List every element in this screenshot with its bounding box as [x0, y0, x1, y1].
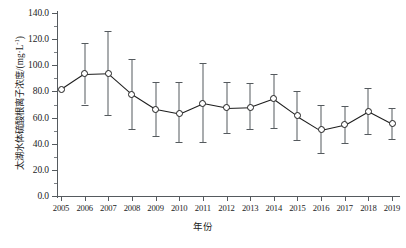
error-bar-cap-lower — [365, 134, 372, 135]
x-tick-major — [108, 197, 109, 201]
data-point-marker — [152, 106, 159, 113]
x-tick-major — [203, 197, 204, 201]
x-tick-label: 2013 — [242, 203, 258, 213]
x-tick-major — [179, 197, 180, 201]
x-tick-major — [321, 197, 322, 201]
x-tick-label: 2009 — [147, 203, 163, 213]
y-axis-title-tail: ) — [15, 36, 25, 39]
x-tick-major — [297, 197, 298, 201]
error-bar-cap-upper — [365, 88, 372, 89]
error-bar-cap-upper — [176, 82, 183, 83]
x-tick-label: 2006 — [76, 203, 92, 213]
x-tick-label: 2018 — [360, 203, 376, 213]
error-bar-cap-upper — [199, 63, 206, 64]
error-bar-cap-upper — [128, 59, 135, 60]
x-tick-label: 2014 — [266, 203, 282, 213]
error-bar-cap-lower — [389, 139, 396, 140]
error-bar-cap-lower — [318, 153, 325, 154]
y-tick-minor — [54, 26, 57, 27]
x-tick-major — [156, 197, 157, 201]
data-point-marker — [223, 104, 230, 111]
error-bar-cap-lower — [81, 105, 88, 106]
error-bar-cap-lower — [152, 136, 159, 137]
error-bar-cap-lower — [247, 129, 254, 130]
x-tick-major — [227, 197, 228, 201]
y-tick-major — [52, 91, 57, 92]
x-tick-label: 2011 — [195, 203, 211, 213]
data-point-marker — [105, 70, 112, 77]
y-tick-minor — [54, 105, 57, 106]
error-bar-cap-upper — [152, 82, 159, 83]
plot-area — [57, 13, 398, 196]
error-bar-cap-lower — [176, 142, 183, 143]
x-tick-label: 2016 — [313, 203, 329, 213]
data-point-marker — [318, 126, 325, 133]
error-bar-cap-upper — [223, 82, 230, 83]
error-bar-cap-upper — [105, 31, 112, 32]
error-bar-cap-lower — [128, 129, 135, 130]
x-tick-major — [368, 197, 369, 201]
y-tick-minor — [54, 131, 57, 132]
y-tick-major — [52, 118, 57, 119]
y-tick-label: 60.0 — [33, 113, 49, 123]
error-bar-cap-lower — [294, 140, 301, 141]
y-axis-title-superscript: -1 — [13, 39, 20, 45]
y-tick-label: 20.0 — [33, 165, 49, 175]
y-axis-tick-labels: 0.020.040.060.080.0100.0120.0140.0 — [0, 13, 57, 196]
data-point-marker — [247, 104, 254, 111]
x-tick-major — [345, 197, 346, 201]
error-bar-cap-upper — [270, 74, 277, 75]
x-tick-label: 2012 — [218, 203, 234, 213]
x-tick-major — [274, 197, 275, 201]
x-tick-label: 2015 — [289, 203, 305, 213]
y-tick-minor — [54, 78, 57, 79]
x-axis-title: 年份 — [0, 219, 406, 233]
data-point-marker — [365, 108, 372, 115]
data-point-marker — [81, 70, 88, 77]
chart-figure: 0.020.040.060.080.0100.0120.0140.0 20052… — [0, 0, 406, 248]
y-tick-label: 40.0 — [33, 139, 49, 149]
data-point-marker — [176, 110, 183, 117]
error-bar-cap-lower — [223, 133, 230, 134]
y-tick-label: 140.0 — [28, 8, 49, 18]
x-tick-label: 2017 — [337, 203, 353, 213]
x-axis-ticks — [57, 197, 400, 202]
error-bar-cap-lower — [270, 128, 277, 129]
error-bar-cap-lower — [199, 142, 206, 143]
error-bar-cap-upper — [294, 91, 301, 92]
y-tick-label: 80.0 — [33, 86, 49, 96]
error-bar-cap-upper — [247, 83, 254, 84]
error-bar-cap-lower — [105, 115, 112, 116]
x-tick-major — [392, 197, 393, 201]
x-tick-label: 2019 — [384, 203, 400, 213]
y-tick-minor — [54, 52, 57, 53]
y-tick-minor — [54, 183, 57, 184]
x-tick-major — [85, 197, 86, 201]
y-tick-major — [52, 170, 57, 171]
y-tick-label: 100.0 — [28, 60, 49, 70]
y-tick-major — [52, 39, 57, 40]
x-tick-label: 2008 — [124, 203, 140, 213]
y-axis-title-main: 太湖水体硫酸根离子浓度/(mg·L — [15, 45, 25, 170]
data-point-marker — [199, 100, 206, 107]
error-bar-cap-upper — [318, 105, 325, 106]
error-bar-cap-upper — [81, 43, 88, 44]
y-tick-major — [52, 13, 57, 14]
y-tick-label: 0.0 — [37, 191, 49, 201]
error-bar-cap-upper — [389, 108, 396, 109]
data-point-marker — [341, 121, 348, 128]
y-axis-title: 太湖水体硫酸根离子浓度/(mg·L-1) — [12, 0, 26, 208]
y-tick-major — [52, 144, 57, 145]
y-tick-minor — [54, 157, 57, 158]
y-tick-major — [52, 65, 57, 66]
error-bar-cap-lower — [341, 143, 348, 144]
x-tick-label: 2007 — [100, 203, 116, 213]
y-tick-label: 120.0 — [28, 34, 49, 44]
x-tick-label: 2010 — [171, 203, 187, 213]
x-tick-label: 2005 — [53, 203, 69, 213]
x-tick-major — [250, 197, 251, 201]
x-tick-major — [61, 197, 62, 201]
error-bar-cap-upper — [341, 106, 348, 107]
x-tick-major — [132, 197, 133, 201]
data-point-marker — [294, 112, 301, 119]
